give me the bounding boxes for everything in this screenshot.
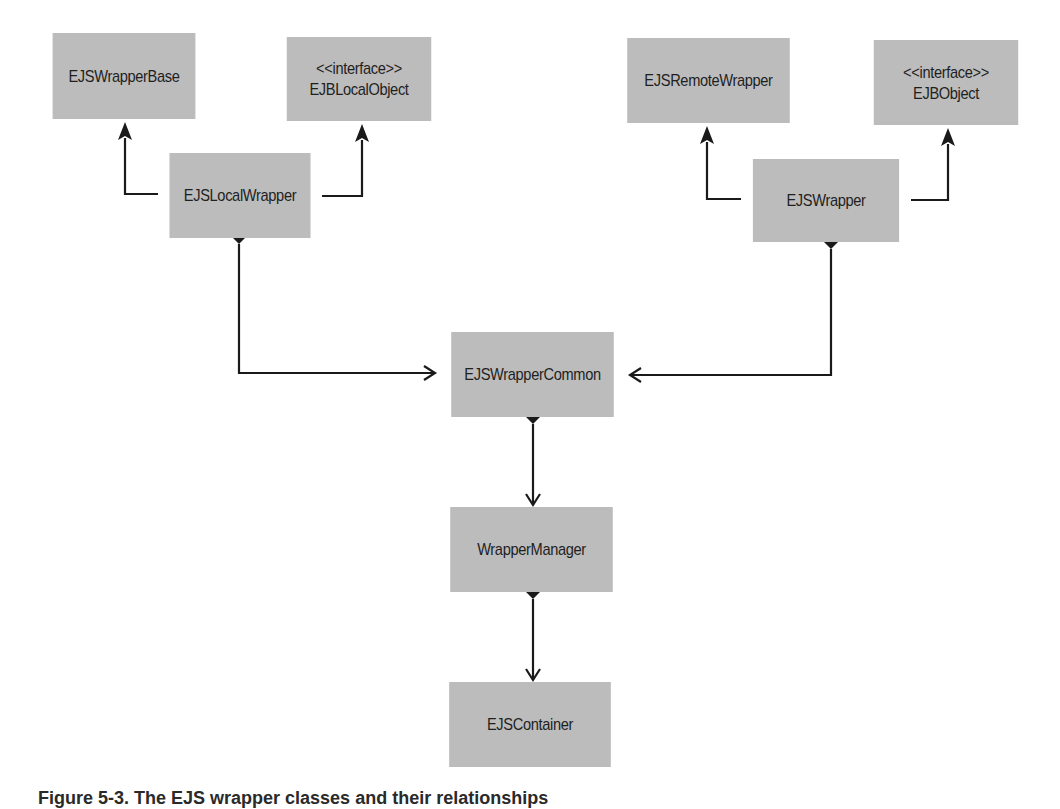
class-name: EJSContainer (487, 714, 573, 735)
composition-wrappermanager-to-ejscontainer (526, 585, 540, 680)
filled-arrowhead-icon (700, 126, 714, 144)
arrow-ejswrapper-to-remotewrapper (700, 126, 741, 199)
arrow-localwrapper-to-wrapperbase (118, 122, 158, 194)
composition-ejswrapper-to-wrappercommon (630, 235, 838, 382)
class-name: EJSRemoteWrapper (644, 70, 772, 91)
class-name: EJBObject (913, 83, 979, 104)
class-name: EJSWrapperBase (68, 66, 179, 87)
class-ejswrapperbase: EJSWrapperBase (53, 33, 196, 119)
class-ejswrappercommon: EJSWrapperCommon (451, 332, 614, 417)
arrow-ejswrapper-to-ejbobject (911, 128, 955, 200)
class-name: EJSWrapper (786, 190, 865, 211)
class-name: EJBLocalObject (309, 79, 408, 100)
class-ejbobject: <<interface>> EJBObject (874, 40, 1018, 125)
composition-wrappercommon-to-wrappermanager (526, 410, 540, 505)
class-name: EJSLocalWrapper (184, 185, 296, 206)
class-ejsremotewrapper: EJSRemoteWrapper (627, 38, 790, 123)
class-ejslocalwrapper: EJSLocalWrapper (169, 153, 310, 238)
class-ejswrapper: EJSWrapper (753, 159, 899, 242)
class-ejscontainer: EJSContainer (449, 682, 611, 767)
composition-localwrapper-to-wrappercommon (232, 230, 435, 380)
filled-arrowhead-icon (941, 128, 955, 146)
class-name: EJSWrapperCommon (464, 364, 600, 385)
class-name: WrapperManager (477, 539, 586, 560)
class-ejblocalobject: <<interface>> EJBLocalObject (287, 37, 431, 121)
filled-arrowhead-icon (355, 124, 369, 142)
arrow-localwrapper-to-ejblocalobject (322, 124, 369, 196)
filled-arrowhead-icon (118, 122, 132, 140)
figure-caption: Figure 5-3. The EJS wrapper classes and … (38, 788, 548, 809)
class-stereotype: <<interface>> (903, 62, 989, 83)
class-wrappermanager: WrapperManager (450, 507, 613, 592)
class-stereotype: <<interface>> (316, 58, 402, 79)
